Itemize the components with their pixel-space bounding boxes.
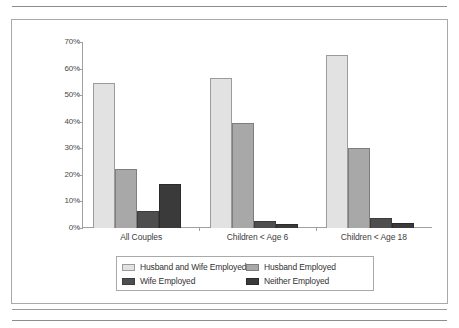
legend-swatch-icon: [246, 264, 259, 271]
legend-label: Husband and Wife Employed: [140, 263, 246, 272]
y-tick-label: 60%: [46, 65, 80, 73]
legend-item[interactable]: Husband Employed: [246, 261, 370, 274]
legend-item[interactable]: Wife Employed: [122, 275, 246, 288]
bar[interactable]: [159, 184, 181, 228]
bar[interactable]: [93, 83, 115, 228]
y-tick-label: 0%: [46, 224, 80, 232]
bar[interactable]: [115, 169, 137, 228]
bar-group: [326, 42, 414, 228]
x-category-label: Children < Age 6: [199, 232, 315, 242]
chart-legend: Husband and Wife EmployedHusband Employe…: [116, 256, 374, 291]
legend-item[interactable]: Husband and Wife Employed: [122, 261, 246, 274]
bar[interactable]: [137, 211, 159, 228]
legend-swatch-icon: [122, 264, 135, 271]
bar[interactable]: [392, 223, 414, 228]
bar[interactable]: [326, 55, 348, 228]
y-tick-label: 20%: [46, 171, 80, 179]
chart-frame: 0%10%20%30%40%50%60%70% All CouplesChild…: [11, 19, 448, 304]
bar[interactable]: [232, 123, 254, 228]
bar[interactable]: [370, 218, 392, 228]
y-tick-mark: [78, 228, 83, 229]
page-rule-bottom-a: [12, 309, 447, 310]
bar[interactable]: [254, 221, 276, 228]
bar-group: [210, 42, 298, 228]
x-category-label: Children < Age 18: [316, 232, 432, 242]
legend-entries: Husband and Wife EmployedHusband Employe…: [122, 261, 370, 289]
y-tick-label: 40%: [46, 118, 80, 126]
bar[interactable]: [210, 78, 232, 228]
legend-label: Husband Employed: [264, 263, 336, 272]
y-tick-label: 50%: [46, 91, 80, 99]
x-group-separator: [316, 227, 317, 231]
page-rule-top: [12, 6, 447, 7]
legend-swatch-icon: [122, 278, 135, 285]
plot-area: 0%10%20%30%40%50%60%70% All CouplesChild…: [12, 20, 449, 305]
y-tick-label: 70%: [46, 38, 80, 46]
bars-area: [83, 42, 432, 228]
legend-label: Neither Employed: [264, 277, 329, 286]
page-rule-bottom-b: [12, 320, 447, 321]
x-axis-category-labels: All CouplesChildren < Age 6Children < Ag…: [83, 232, 432, 246]
bar[interactable]: [348, 148, 370, 228]
y-tick-label: 10%: [46, 197, 80, 205]
legend-label: Wife Employed: [140, 277, 195, 286]
y-tick-label: 30%: [46, 144, 80, 152]
x-category-label: All Couples: [83, 232, 199, 242]
x-group-separator: [199, 227, 200, 231]
bar[interactable]: [276, 224, 298, 228]
legend-item[interactable]: Neither Employed: [246, 275, 370, 288]
legend-swatch-icon: [246, 278, 259, 285]
bar-group: [93, 42, 181, 228]
y-axis-tick-labels: 0%10%20%30%40%50%60%70%: [46, 38, 80, 228]
